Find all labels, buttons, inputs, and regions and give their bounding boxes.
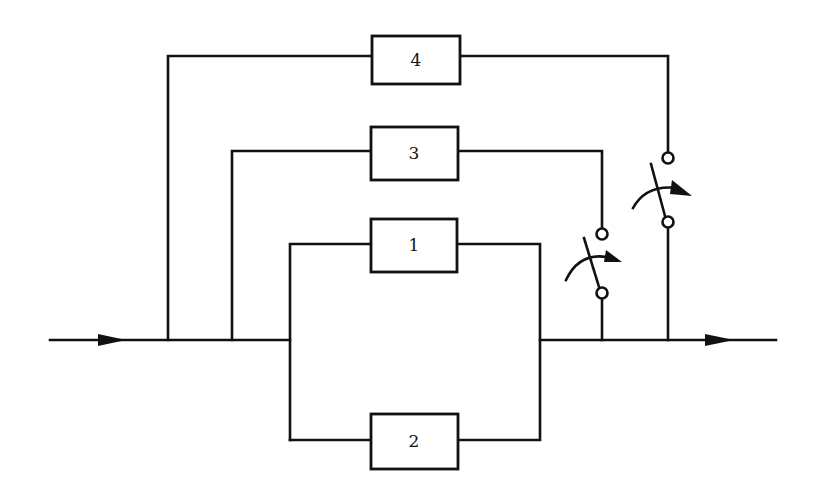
block-2-label: 2 [409, 431, 420, 451]
block-1-label: 1 [409, 235, 420, 255]
reliability-diagram: 4 3 1 2 [0, 0, 814, 503]
block-1: 1 [371, 219, 457, 272]
switch-4-icon [633, 153, 692, 228]
branch-3-left [232, 151, 371, 340]
block-4-label: 4 [411, 50, 422, 70]
branch-4-right [460, 56, 668, 152]
switch-3-icon [566, 229, 622, 299]
block-3: 3 [371, 127, 458, 180]
block-4: 4 [372, 36, 460, 84]
input-arrow-icon [98, 334, 126, 346]
output-arrow-icon [705, 334, 734, 346]
branch-4-left [168, 56, 372, 340]
branch-1-right [457, 244, 540, 440]
branch-3-right [458, 151, 602, 228]
branch-1-left [290, 244, 371, 440]
block-3-label: 3 [409, 143, 420, 163]
block-2: 2 [371, 414, 458, 469]
